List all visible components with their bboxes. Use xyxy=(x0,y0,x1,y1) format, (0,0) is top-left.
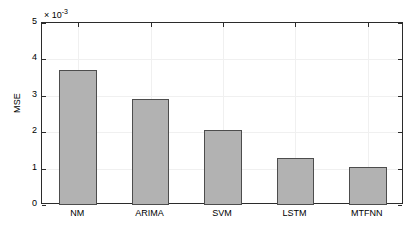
bar-lstm xyxy=(277,158,315,205)
y-tick-mark xyxy=(398,59,402,60)
x-tick-mark xyxy=(151,23,152,27)
bar-mtfnn xyxy=(349,167,387,205)
y-axis-exponent-multiplier: × 10-3 xyxy=(44,8,68,20)
x-tick-mark xyxy=(78,23,79,27)
x-tick-mark xyxy=(368,23,369,27)
y-tick-mark xyxy=(42,169,46,170)
bar-svm xyxy=(204,130,242,205)
y-tick-label: 4 xyxy=(7,52,37,62)
y-tick-mark xyxy=(42,59,46,60)
x-tick-label-mtfnn: MTFNN xyxy=(327,208,407,218)
y-tick-mark xyxy=(398,169,402,170)
y-tick-label: 0 xyxy=(7,198,37,208)
x-tick-label-nm: NM xyxy=(37,208,117,218)
y-tick-label: 3 xyxy=(7,89,37,99)
y-tick-mark xyxy=(42,96,46,97)
gridline-horizontal xyxy=(42,59,402,60)
x-tick-mark xyxy=(223,23,224,27)
y-tick-mark xyxy=(398,96,402,97)
y-tick-mark xyxy=(42,205,46,206)
x-tick-label-svm: SVM xyxy=(182,208,262,218)
y-tick-mark xyxy=(398,23,402,24)
y-tick-mark xyxy=(42,23,46,24)
bar-nm xyxy=(59,70,97,205)
y-tick-mark xyxy=(398,205,402,206)
bar-chart-figure: MSE × 10-3 012345 NMARIMASVMLSTMMTFNN xyxy=(0,0,418,232)
y-tick-label: 1 xyxy=(7,162,37,172)
y-tick-mark xyxy=(398,132,402,133)
x-tick-label-arima: ARIMA xyxy=(110,208,190,218)
y-tick-label: 2 xyxy=(7,125,37,135)
y-axis-label: MSE xyxy=(12,73,22,133)
y-tick-label: 5 xyxy=(7,16,37,26)
x-tick-label-lstm: LSTM xyxy=(254,208,334,218)
exponent-base: × 10 xyxy=(44,10,62,20)
y-tick-mark xyxy=(42,132,46,133)
x-tick-mark xyxy=(295,23,296,27)
bar-arima xyxy=(132,99,170,205)
exponent-power: -3 xyxy=(62,8,68,15)
plot-area xyxy=(41,22,403,204)
